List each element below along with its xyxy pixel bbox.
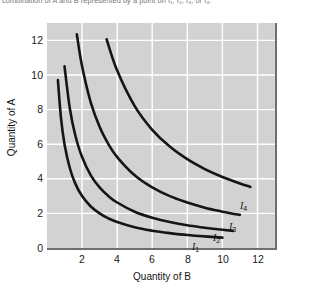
y-tick-4: 4 — [21, 173, 43, 183]
curve-label-I4: I4 — [240, 200, 247, 212]
y-tick-8: 8 — [21, 104, 43, 114]
curve-label-I3: I3 — [229, 221, 236, 233]
y-tick-6: 6 — [21, 139, 43, 149]
figure-caption: combination of A and B represented by a … — [2, 0, 302, 5]
indifference-curves — [58, 34, 251, 237]
plot-svg — [47, 23, 275, 248]
y-tick-12: 12 — [21, 35, 43, 45]
x-tick-4: 4 — [106, 254, 128, 265]
x-tick-6: 6 — [141, 254, 163, 265]
plot-panel: I4 I3 I2 I1 — [47, 23, 277, 250]
caption-clip: combination of A and B represented by a … — [0, 0, 309, 9]
x-axis-ticks: 2 4 6 8 10 12 — [0, 254, 309, 270]
y-tick-2: 2 — [21, 208, 43, 218]
y-tick-0: 0 — [21, 243, 43, 253]
curve-label-I2: I2 — [213, 232, 220, 244]
x-axis-title: Quantity of B — [47, 271, 277, 282]
y-axis-ticks: 0 2 4 6 8 10 12 — [16, 0, 43, 293]
indifference-curve-figure: combination of A and B represented by a … — [0, 0, 309, 293]
y-tick-10: 10 — [21, 70, 43, 80]
x-tick-2: 2 — [71, 254, 93, 265]
y-axis-title: Quantity of A — [6, 88, 17, 168]
x-tick-8: 8 — [177, 254, 199, 265]
curve-label-I1: I1 — [192, 241, 199, 253]
x-tick-12: 12 — [247, 254, 269, 265]
curve-I4 — [107, 39, 251, 187]
x-tick-10: 10 — [212, 254, 234, 265]
